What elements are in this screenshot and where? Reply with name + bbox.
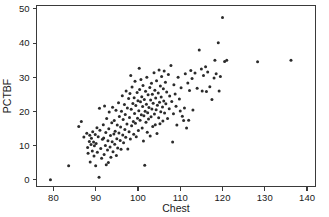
data-point — [143, 164, 146, 167]
data-point — [121, 133, 124, 136]
data-point — [162, 100, 165, 103]
data-point — [129, 74, 132, 77]
data-point — [174, 92, 177, 95]
data-point — [142, 84, 145, 87]
data-point — [166, 117, 169, 120]
data-point — [182, 119, 185, 122]
data-point — [155, 108, 158, 111]
data-point — [180, 86, 183, 89]
data-point — [156, 104, 159, 107]
data-point — [122, 141, 125, 144]
data-point — [149, 134, 152, 137]
data-point — [141, 127, 144, 130]
data-point — [165, 90, 168, 93]
data-point — [96, 151, 99, 154]
data-point — [91, 149, 94, 152]
data-point — [139, 100, 142, 103]
data-point — [104, 131, 107, 134]
data-point — [210, 98, 213, 101]
data-point — [115, 137, 118, 140]
data-point — [200, 68, 203, 71]
data-point — [116, 124, 119, 127]
data-point — [154, 97, 157, 100]
data-point — [151, 93, 154, 96]
data-point — [153, 89, 156, 92]
data-point — [129, 138, 132, 141]
data-point-group — [49, 16, 293, 181]
data-point — [168, 107, 171, 110]
data-point — [121, 94, 124, 97]
data-point — [168, 95, 171, 98]
data-point — [164, 81, 167, 84]
data-point — [67, 164, 70, 167]
data-point — [160, 96, 163, 99]
data-point — [105, 117, 108, 120]
y-axis-tick-label: 40 — [19, 37, 30, 48]
data-point — [172, 112, 175, 115]
data-point — [117, 101, 120, 104]
data-point — [289, 59, 292, 62]
data-point — [98, 129, 101, 132]
data-point — [86, 146, 89, 149]
data-point — [153, 113, 156, 116]
data-point — [110, 121, 113, 124]
data-point — [133, 96, 136, 99]
data-point — [153, 71, 156, 74]
data-point — [130, 108, 133, 111]
data-point — [144, 110, 147, 113]
data-point — [184, 72, 187, 75]
data-point — [145, 76, 148, 79]
y-axis-tick-label: 50 — [19, 3, 30, 14]
data-point — [95, 126, 98, 129]
y-axis-title: PCTBF — [1, 79, 13, 113]
data-point — [149, 99, 152, 102]
data-point — [92, 155, 95, 158]
data-point — [124, 136, 127, 139]
data-point — [177, 76, 180, 79]
data-point — [163, 70, 166, 73]
data-point — [206, 71, 209, 74]
x-axis-tick-label: 140 — [299, 192, 315, 203]
data-point — [131, 86, 134, 89]
data-point — [162, 87, 165, 90]
data-point — [154, 123, 157, 126]
data-point — [134, 104, 137, 107]
data-point — [147, 93, 150, 96]
data-point — [138, 67, 141, 70]
y-axis-tick-label: 0 — [24, 174, 29, 185]
data-point — [202, 74, 205, 77]
data-point — [138, 88, 141, 91]
data-point — [102, 123, 105, 126]
data-point — [115, 154, 118, 157]
data-point — [112, 150, 115, 153]
data-point — [146, 111, 149, 114]
data-point — [137, 129, 140, 132]
data-point — [225, 59, 228, 62]
data-point — [131, 102, 134, 105]
data-point — [97, 135, 100, 138]
data-point — [148, 86, 151, 89]
data-point — [127, 97, 130, 100]
data-point — [145, 103, 148, 106]
data-point — [109, 134, 112, 137]
data-point — [128, 92, 131, 95]
x-axis-tick-label: 110 — [173, 192, 188, 203]
data-point — [122, 118, 125, 121]
data-point — [205, 90, 208, 93]
data-point — [130, 124, 133, 127]
data-point — [167, 73, 170, 76]
data-point — [170, 100, 173, 103]
data-point — [109, 145, 112, 148]
data-point — [99, 147, 102, 150]
data-point — [218, 89, 221, 92]
data-point — [175, 105, 178, 108]
data-point — [221, 16, 224, 19]
data-point — [157, 116, 160, 119]
data-point — [106, 139, 109, 142]
data-point — [181, 115, 184, 118]
data-point — [178, 98, 181, 101]
data-point — [185, 127, 188, 130]
data-point — [134, 122, 137, 125]
data-point — [126, 147, 129, 150]
data-point — [113, 119, 116, 122]
